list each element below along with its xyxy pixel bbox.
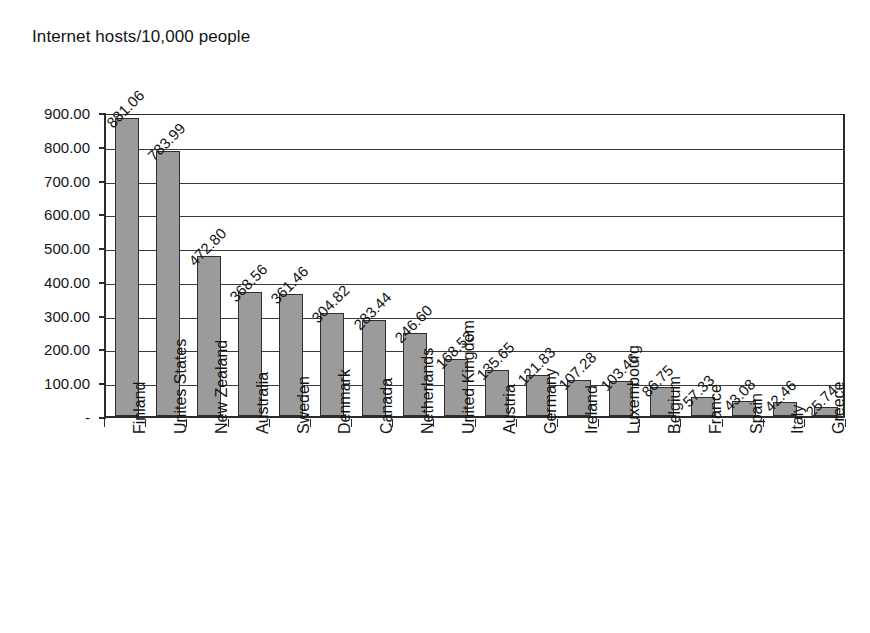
x-axis-category-label[interactable]: United Kingdom [460, 320, 478, 434]
x-axis-tick-mark [351, 419, 352, 427]
bar-chart: Internet hosts/10,000 people -100.00200.… [0, 0, 870, 633]
x-axis-tick-mark [680, 419, 681, 427]
y-axis-tick-label: 700.00 [0, 173, 90, 190]
x-axis-tick-mark [475, 419, 476, 427]
gridline [106, 216, 843, 217]
gridline [106, 183, 843, 184]
x-axis-tick-mark [104, 419, 105, 427]
x-axis-category-label[interactable]: Spain [748, 393, 766, 434]
y-axis-tick-label: 600.00 [0, 206, 90, 223]
x-axis-tick-mark [516, 419, 517, 427]
gridline [106, 250, 843, 251]
x-axis-tick-mark [557, 419, 558, 427]
x-axis-tick-mark [433, 419, 434, 427]
gridline [106, 149, 843, 150]
x-axis-tick-mark [598, 419, 599, 427]
x-axis-tick-mark [228, 419, 229, 427]
x-axis-tick-mark [722, 419, 723, 427]
x-axis-tick-mark [310, 419, 311, 427]
x-axis-tick-mark [186, 419, 187, 427]
bar[interactable] [115, 118, 139, 416]
x-axis-tick-mark [269, 419, 270, 427]
chart-title: Internet hosts/10,000 people [32, 27, 250, 47]
y-axis-tick-label: 400.00 [0, 274, 90, 291]
y-axis-tick-label: 900.00 [0, 105, 90, 122]
x-axis-tick-mark [763, 419, 764, 427]
x-axis-tick-mark [392, 419, 393, 427]
y-axis-tick-label: 200.00 [0, 341, 90, 358]
x-axis-tick-mark [804, 419, 805, 427]
y-axis-tick-label: 500.00 [0, 240, 90, 257]
y-axis-tick-label: 800.00 [0, 139, 90, 156]
y-axis-tick-label: - [0, 409, 90, 426]
x-axis-tick-mark [845, 419, 846, 427]
y-axis-tick-label: 100.00 [0, 375, 90, 392]
x-axis-tick-mark [145, 419, 146, 427]
x-axis-tick-mark [639, 419, 640, 427]
y-axis-tick-label: 300.00 [0, 308, 90, 325]
